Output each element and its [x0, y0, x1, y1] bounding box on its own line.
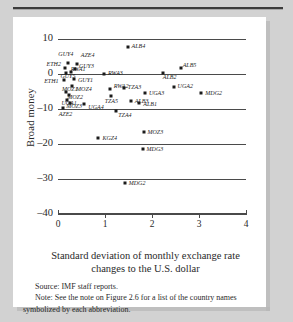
data-point-label: ETH1: [44, 78, 58, 84]
data-point: [141, 148, 144, 151]
data-point: [67, 62, 70, 65]
plot-wrapper: Broad money 100–10–20–30–4001234GUY4AZE4…: [13, 17, 266, 232]
data-point: [123, 181, 126, 184]
y-axis-title: Broad money: [25, 63, 36, 173]
x-tick-mark: [105, 214, 106, 218]
data-point: [63, 78, 66, 81]
x-axis-title-line2: changes to the U.S. dollar: [33, 262, 258, 275]
data-point-label: RWA3: [108, 70, 123, 76]
figure-note-line2: symbolized by each abbreviation.: [23, 304, 261, 315]
data-point: [138, 102, 141, 105]
y-tick-label: –40: [13, 207, 53, 218]
data-point-label: RWA1: [71, 66, 86, 72]
data-point-label: AZE4: [81, 52, 95, 58]
data-point: [83, 103, 86, 106]
data-point-label: TZA4: [118, 112, 131, 118]
data-point: [200, 91, 203, 94]
source-note: Source: IMF staff reports.: [35, 281, 261, 292]
data-point-label: ALB1: [143, 101, 157, 107]
plot-area: 100–10–20–30–4001234GUY4AZE4ETH2GUY3RWA1…: [58, 39, 246, 214]
x-tick-label: 0: [56, 219, 61, 229]
x-tick-mark: [58, 210, 59, 215]
y-gridline: [58, 39, 246, 40]
data-point-label: ALB2: [163, 74, 177, 80]
x-tick-label: 3: [197, 219, 202, 229]
y-tick-label: 10: [13, 32, 53, 43]
data-point-label: ETH2: [47, 61, 61, 67]
data-point: [108, 87, 111, 90]
top-divider-shadow: [13, 9, 283, 10]
data-point: [97, 137, 100, 140]
data-point-label: TZA5: [105, 98, 118, 104]
data-point: [172, 85, 175, 88]
y-gridline: [58, 109, 246, 110]
data-point: [142, 131, 145, 134]
data-point-label: MDG3: [147, 146, 164, 152]
x-tick-mark: [246, 210, 247, 215]
data-point-label: MOZ3: [66, 103, 82, 109]
y-gridline: [58, 179, 246, 180]
data-point: [63, 67, 66, 70]
x-tick-mark: [152, 214, 153, 218]
figure-note-line1: Note: See the note on Figure 2.6 for a l…: [35, 292, 261, 303]
data-point: [103, 72, 106, 75]
y-tick-label: –10: [13, 102, 53, 113]
data-point: [61, 106, 64, 109]
x-axis-title: Standard deviation of monthly exchange r…: [33, 249, 258, 276]
data-point-label: MOZ1: [62, 86, 78, 92]
data-point-label: MOZ4: [76, 86, 92, 92]
y-gridline: [58, 74, 246, 75]
figure-card: Broad money 100–10–20–30–4001234GUY4AZE4…: [13, 17, 266, 307]
x-tick-label: 4: [244, 219, 249, 229]
data-point-label: MDG2: [129, 180, 146, 186]
data-point-label: ALB4: [132, 43, 146, 49]
data-point-label: UGA4: [88, 104, 103, 110]
data-point-label: UGA3: [149, 90, 164, 96]
data-point-label: KGZ4: [102, 135, 117, 141]
card-shadow-right: [266, 21, 270, 311]
x-axis-title-line1: Standard deviation of monthly exchange r…: [33, 249, 258, 262]
data-point: [126, 46, 129, 49]
figure-footer: Source: IMF staff reports. Note: See the…: [23, 281, 261, 315]
data-point: [72, 77, 75, 80]
data-point-label: MDG2: [205, 90, 222, 96]
data-point-label: TZA3: [128, 84, 141, 90]
data-point: [129, 99, 132, 102]
data-point-label: UGA2: [178, 83, 193, 89]
x-tick-label: 1: [103, 219, 108, 229]
y-gridline: [58, 144, 246, 145]
y-tick-label: –30: [13, 172, 53, 183]
y-tick-label: 0: [13, 67, 53, 78]
data-point: [143, 92, 146, 95]
figure-root: Broad money 100–10–20–30–4001234GUY4AZE4…: [0, 0, 293, 322]
data-point: [122, 86, 125, 89]
data-point-label: GUY1: [78, 77, 93, 83]
x-tick-mark: [199, 214, 200, 218]
y-tick-label: –20: [13, 137, 53, 148]
data-point-label: ALB5: [183, 62, 197, 68]
data-point-label: MOZ3: [148, 129, 164, 135]
x-tick-label: 2: [150, 219, 155, 229]
data-point-label: GUY4: [58, 51, 73, 57]
data-point-label: AZE2: [59, 111, 73, 117]
data-point-label: RWA2: [114, 83, 129, 89]
